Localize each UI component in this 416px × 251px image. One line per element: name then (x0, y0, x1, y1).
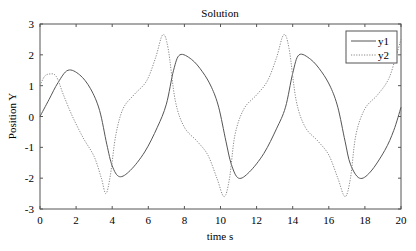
x-tick-label: 12 (251, 214, 262, 226)
x-tick-label: 8 (182, 214, 188, 226)
x-tick-label: 14 (287, 214, 299, 226)
y-tick-label: 1 (29, 80, 35, 92)
legend-label-y1: y1 (378, 35, 389, 47)
y-tick-label: 3 (29, 18, 35, 30)
y-axis-ticks: -3-2-10123 (25, 18, 401, 215)
legend-box (346, 31, 397, 63)
series-line-y1 (40, 54, 401, 178)
y-tick-label: -3 (25, 203, 35, 215)
legend: y1 y2 (346, 31, 397, 63)
x-tick-label: 18 (359, 214, 371, 226)
y-tick-label: 0 (29, 111, 35, 123)
x-axis-label: time s (207, 230, 234, 242)
chart: Solution 02468101214161820 -3-2-10123 ti… (0, 0, 416, 251)
x-tick-label: 4 (109, 214, 115, 226)
x-tick-label: 6 (146, 214, 152, 226)
y-tick-label: -2 (25, 172, 34, 184)
y-tick-label: -1 (25, 141, 34, 153)
x-tick-label: 10 (215, 214, 227, 226)
legend-label-y2: y2 (378, 49, 389, 61)
x-tick-label: 2 (73, 214, 79, 226)
x-tick-label: 20 (396, 214, 408, 226)
y-axis-label: Position Y (6, 93, 18, 139)
chart-title: Solution (201, 7, 239, 19)
y-tick-label: 2 (29, 49, 35, 61)
x-tick-label: 0 (37, 214, 43, 226)
x-tick-label: 16 (323, 214, 335, 226)
